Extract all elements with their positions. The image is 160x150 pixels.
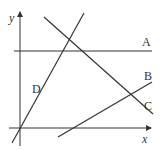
line-c-label: C	[144, 99, 152, 113]
line-d-label: D	[32, 82, 41, 96]
y-axis-label: y	[8, 11, 15, 25]
line-c	[44, 17, 153, 114]
x-axis-label: x	[141, 132, 148, 146]
line-a-label: A	[142, 35, 151, 49]
diagram-svg: y x A B C D	[0, 0, 160, 150]
line-b-label: B	[144, 69, 152, 83]
diagram-canvas: y x A B C D	[0, 0, 160, 150]
line-b	[58, 82, 152, 137]
line-d	[12, 13, 84, 143]
